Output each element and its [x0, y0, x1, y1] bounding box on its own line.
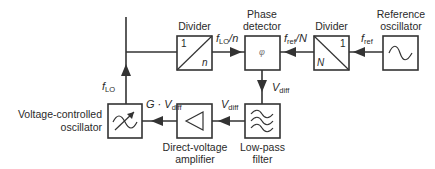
reference-oscillator-label-1: Reference [370, 8, 432, 20]
arrow-down-vdiff [257, 80, 267, 92]
signal-f-lo: fLO [102, 80, 115, 94]
divider-n-label: Divider [172, 20, 217, 32]
arrow-left-gvdiff [151, 116, 163, 126]
reference-oscillator-label-2: oscillator [370, 20, 432, 32]
divider-n-top-text: 1 [181, 38, 187, 49]
vco-label-2: oscillator [0, 121, 102, 133]
amplifier-label-1: Direct-voltage [160, 141, 230, 153]
amplifier-block [177, 104, 212, 138]
arrow-right-flo-n [230, 47, 242, 57]
amplifier-label-2: amplifier [160, 153, 230, 165]
divider-n-bottom-text: n [202, 57, 208, 68]
signal-f-ref-over-N: fref/N [284, 32, 307, 46]
divider-N-bottom-text: N [317, 57, 324, 68]
lpf-label-2: filter [235, 153, 290, 165]
arrow-up-flo [121, 64, 131, 76]
lpf-label-1: Low-pass [235, 141, 290, 153]
vco-label-1: Voltage-controlled [0, 108, 102, 120]
arrow-left-vdiff [218, 116, 230, 126]
divider-N-label: Divider [309, 20, 354, 32]
phase-detector-label-2: detector [232, 20, 292, 32]
signal-f-ref: fref [361, 32, 373, 46]
signal-g-v-diff: G · Vdiff [146, 98, 182, 112]
signal-f-lo-over-n: fLO/n [216, 32, 238, 46]
signal-v-diff-pd: Vdiff [272, 81, 289, 95]
divider-N-top-text: 1 [340, 38, 346, 49]
arrow-left-fref-N [284, 47, 296, 57]
phase-detector-label-1: Phase [232, 8, 292, 20]
signal-v-diff-lpf: Vdiff [221, 98, 238, 112]
arrow-left-fref [353, 47, 365, 57]
phase-symbol: φ [259, 47, 265, 57]
